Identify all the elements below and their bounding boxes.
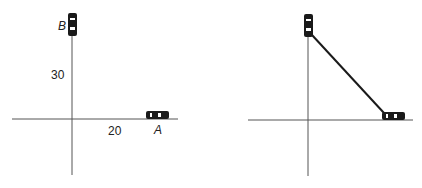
distance-30-label: 30 bbox=[51, 68, 65, 82]
right-panel bbox=[248, 14, 413, 176]
left-panel: B 30 20 A bbox=[12, 13, 178, 175]
car-a-icon bbox=[382, 112, 405, 120]
car-a-label: A bbox=[153, 123, 162, 137]
car-b-label: B bbox=[58, 19, 66, 33]
car-b-icon bbox=[304, 14, 313, 37]
car-a-icon bbox=[146, 111, 169, 119]
diagram-canvas: B 30 20 A bbox=[0, 0, 422, 188]
connector-line bbox=[312, 35, 384, 113]
car-b-icon bbox=[68, 13, 77, 36]
distance-20-label: 20 bbox=[108, 124, 122, 138]
